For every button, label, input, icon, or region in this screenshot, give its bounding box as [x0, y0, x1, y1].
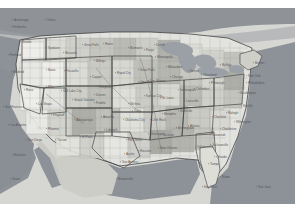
city-label[interactable]: Boise — [48, 68, 56, 72]
city-label[interactable]: Brownsville — [118, 177, 134, 181]
city-label[interactable]: New Orleans — [160, 146, 178, 150]
city-label[interactable]: Charlotte — [214, 115, 227, 119]
city-label[interactable]: Fort Worth — [128, 138, 142, 142]
city-label[interactable]: Jacksonville — [212, 143, 229, 147]
city-label[interactable]: Tulsa — [134, 109, 142, 113]
city-label[interactable]: Houston — [140, 149, 152, 153]
city-label[interactable]: Orlando — [216, 155, 227, 159]
city-label[interactable]: Tallahassee — [197, 145, 213, 149]
city-dot — [24, 89, 25, 90]
city-label[interactable]: Cheyenne — [99, 85, 113, 89]
city-label[interactable]: Kansas City — [146, 94, 163, 98]
city-label[interactable]: Tucson — [57, 138, 67, 142]
city-label[interactable]: Columbus — [196, 87, 210, 91]
city-label[interactable]: New York — [248, 74, 261, 78]
city-dot — [120, 161, 121, 162]
city-dot — [176, 127, 177, 128]
city-label[interactable]: Casper — [92, 75, 102, 79]
city-label[interactable]: Lubbock — [106, 128, 118, 132]
city-dot — [209, 82, 210, 83]
map-screenshot: AnchorageFairbanksYukonSeattlePortlandSp… — [0, 0, 295, 214]
city-label[interactable]: Des Moines — [150, 79, 166, 83]
city-label[interactable]: Flagstaff — [53, 113, 65, 117]
city-label[interactable]: Chicago — [172, 75, 183, 79]
city-label[interactable]: Seattle — [22, 40, 32, 44]
city-label[interactable]: San Francisco — [5, 105, 25, 109]
city-label[interactable]: Denver — [96, 93, 106, 97]
city-label[interactable]: Memphis — [164, 112, 177, 116]
city-dot — [132, 110, 133, 111]
city-dot — [188, 125, 189, 126]
city-label[interactable]: Little Rock — [152, 118, 167, 122]
city-label[interactable]: Norfolk — [243, 104, 253, 108]
city-label[interactable]: Miami — [222, 175, 230, 179]
city-label[interactable]: San Antonio — [122, 160, 139, 164]
city-label[interactable]: Medford — [13, 70, 24, 74]
city-label[interactable]: Bismarck — [130, 46, 143, 50]
city-dot — [82, 44, 83, 45]
city-label[interactable]: Detroit — [190, 69, 199, 73]
city-label[interactable]: Billings — [96, 59, 106, 63]
city-label[interactable]: Havre — [105, 42, 113, 46]
city-label[interactable]: El Paso — [82, 135, 93, 139]
city-label[interactable]: Louisville — [186, 99, 199, 103]
city-label[interactable]: Yukon — [47, 18, 56, 22]
city-label[interactable]: Atlanta — [190, 124, 200, 128]
city-dot — [158, 147, 159, 148]
city-label[interactable]: Nashville — [180, 109, 193, 113]
city-label[interactable]: Reno — [26, 88, 34, 92]
city-label[interactable]: Rapid City — [117, 71, 131, 75]
city-label[interactable]: Honolulu — [14, 153, 26, 157]
us-map-canvas[interactable]: AnchorageFairbanksYukonSeattlePortlandSp… — [0, 8, 295, 204]
city-dot — [166, 66, 167, 67]
city-dot — [241, 105, 242, 106]
city-label[interactable]: Sioux Falls — [140, 68, 155, 72]
city-label[interactable]: Tampa — [210, 162, 219, 166]
city-label[interactable]: Grand Junction — [74, 98, 95, 102]
city-label[interactable]: San Diego — [28, 138, 42, 142]
city-label[interactable]: Cleveland — [203, 73, 217, 77]
city-label[interactable]: Raleigh — [228, 111, 239, 115]
city-label[interactable]: Pocatello — [66, 69, 79, 73]
city-label[interactable]: Phoenix — [48, 127, 59, 131]
city-label[interactable]: Portland — [10, 53, 22, 57]
city-label[interactable]: Buffalo — [222, 63, 232, 67]
city-label[interactable]: Fairbanks — [13, 25, 27, 29]
city-label[interactable]: Elko — [48, 85, 54, 89]
city-dot — [94, 102, 95, 103]
city-dot — [256, 186, 257, 187]
city-label[interactable]: Jackson — [163, 133, 174, 137]
city-label[interactable]: Washington — [240, 91, 256, 95]
city-label[interactable]: Pittsburgh — [211, 81, 225, 85]
city-dot — [45, 19, 46, 20]
city-label[interactable]: Wilmington — [236, 120, 251, 124]
city-label[interactable]: Key West — [204, 185, 217, 189]
city-label[interactable]: Albuquerque — [76, 118, 93, 122]
city-label[interactable]: Charleston — [222, 127, 237, 131]
city-label[interactable]: San Juan — [258, 185, 271, 189]
city-label[interactable]: Wichita — [130, 102, 140, 106]
city-label[interactable]: Minneapolis — [157, 55, 174, 59]
city-label[interactable]: Las Vegas — [38, 102, 53, 106]
city-label[interactable]: Austin — [126, 152, 135, 156]
city-label[interactable]: Philadelphia — [248, 81, 265, 85]
city-label[interactable]: Los Angeles — [10, 123, 27, 127]
city-label[interactable]: Savannah — [212, 133, 226, 137]
city-label[interactable]: Duluth — [156, 43, 165, 47]
city-dot — [188, 70, 189, 71]
city-label[interactable]: Boston — [255, 61, 265, 65]
us-map-svg[interactable]: AnchorageFairbanksYukonSeattlePortlandSp… — [0, 8, 295, 204]
city-label[interactable]: Missoula — [65, 51, 77, 55]
city-label[interactable]: Fargo — [146, 48, 154, 52]
city-label[interactable]: Oklahoma City — [125, 118, 145, 122]
city-label[interactable]: Spokane — [48, 46, 60, 50]
city-label[interactable]: St. Louis — [162, 96, 174, 100]
city-label[interactable]: Pueblo — [96, 101, 106, 105]
city-label[interactable]: Milwaukee — [168, 65, 183, 69]
city-label[interactable]: Guam — [12, 177, 21, 181]
city-label[interactable]: Amarillo — [103, 115, 114, 119]
city-label[interactable]: Salt Lake City — [63, 89, 82, 93]
city-dot — [104, 129, 105, 130]
city-label[interactable]: Great Falls — [84, 43, 99, 47]
city-label[interactable]: Anchorage — [14, 18, 29, 22]
